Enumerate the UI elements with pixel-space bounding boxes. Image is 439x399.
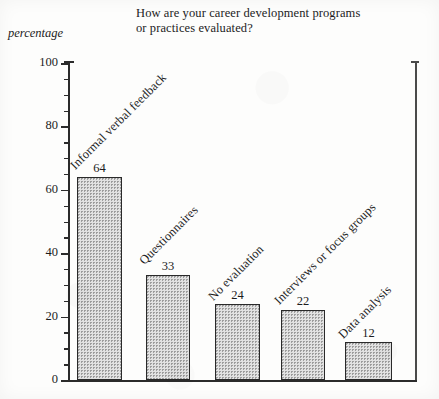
right-frame-line xyxy=(415,61,417,382)
y-tick-mark xyxy=(61,63,68,65)
chart-title: How are your career development programs… xyxy=(136,6,386,36)
bar: 64 xyxy=(77,177,122,380)
y-tick-label: 0 xyxy=(52,372,58,387)
category-label: Interviews or focus groups xyxy=(271,200,379,308)
y-tick-mark xyxy=(61,190,68,192)
y-tick-mark xyxy=(61,317,68,319)
category-label: Questionnaires xyxy=(136,203,201,268)
y-tick-mark xyxy=(64,269,68,270)
y-tick-mark xyxy=(64,174,68,175)
y-tick-label: 40 xyxy=(46,246,59,261)
y-tick-label: 20 xyxy=(46,309,59,324)
y-tick-mark xyxy=(61,380,68,382)
right-frame-top-cap xyxy=(411,61,419,63)
y-tick-mark xyxy=(64,332,68,333)
y-tick-mark xyxy=(64,301,68,302)
bar-value-label: 64 xyxy=(93,161,106,176)
y-tick-mark xyxy=(64,237,68,238)
y-tick-mark xyxy=(64,95,68,96)
bar: 33 xyxy=(146,275,190,380)
bar: 22 xyxy=(281,310,325,380)
y-tick-mark xyxy=(64,79,68,80)
y-axis-unit-label: percentage xyxy=(8,26,63,41)
bar: 24 xyxy=(215,304,260,380)
y-tick-label: 80 xyxy=(46,119,59,134)
chart-title-line-1: How are your career development programs xyxy=(136,6,386,21)
y-tick-mark xyxy=(64,348,68,349)
y-tick-mark xyxy=(64,158,68,159)
x-axis-line xyxy=(68,380,417,382)
y-tick-label: 60 xyxy=(46,182,59,197)
y-tick-mark xyxy=(61,253,68,255)
category-label: Informal verbal feedback xyxy=(67,71,169,173)
bar: 12 xyxy=(345,342,392,380)
plot-area: 020406080100 6433242212 Informal verbal … xyxy=(68,63,417,380)
y-axis-line xyxy=(68,61,70,382)
bar-value-label: 12 xyxy=(362,326,375,341)
y-tick-mark xyxy=(64,222,68,223)
y-tick-mark xyxy=(64,142,68,143)
y-tick-mark xyxy=(64,364,68,365)
y-tick-label: 100 xyxy=(39,55,58,70)
bar-value-label: 33 xyxy=(162,259,175,274)
bar-value-label: 22 xyxy=(297,294,310,309)
y-tick-mark xyxy=(61,126,68,128)
bar-chart-figure: How are your career development programs… xyxy=(0,0,439,399)
chart-title-line-2: or practices evaluated? xyxy=(136,21,386,36)
y-tick-mark xyxy=(64,285,68,286)
y-tick-mark xyxy=(64,111,68,112)
y-tick-mark xyxy=(64,206,68,207)
bar-value-label: 24 xyxy=(231,288,244,303)
